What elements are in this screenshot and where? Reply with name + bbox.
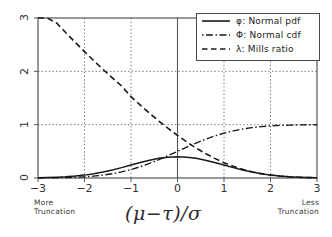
xtick-label-1: 1 [214,182,234,195]
note-more-truncation: More Truncation [34,198,75,216]
legend-label-normal-pdf: φ: Normal pdf [231,16,300,26]
ytick-label-0: 0 [18,171,31,185]
ytick-label-1: 1 [18,118,31,132]
xtick-label-0: 0 [168,182,188,195]
xtick-label-neg1: −1 [121,182,141,195]
solid-line-sample [201,16,231,26]
legend-item-mills-ratio: λ: Mills ratio [197,42,319,56]
ytick-label-3: 3 [18,11,31,25]
note-less-truncation-line2: Truncation [278,207,319,216]
xtick-label-neg2: −2 [75,182,95,195]
legend-label-mills-ratio: λ: Mills ratio [231,44,294,54]
chart-legend: φ: Normal pdf Φ: Normal cdf λ: Mills rat… [196,13,320,61]
note-less-truncation-line1: Less [278,198,319,207]
xtick-label-3: 3 [307,182,327,195]
x-axis-title: (μ−τ)/σ [125,202,201,224]
xtick-label-2: 2 [261,182,281,195]
chart-figure: −3 −2 −1 0 1 2 3 0 1 2 3 More Truncation… [0,0,332,237]
note-more-truncation-line2: Truncation [34,207,75,216]
xtick-label-neg3: −3 [28,182,48,195]
legend-item-normal-cdf: Φ: Normal cdf [197,28,319,42]
note-more-truncation-line1: More [34,198,75,207]
legend-item-normal-pdf: φ: Normal pdf [197,14,319,28]
dashdot-line-sample [201,30,231,40]
ytick-label-2: 2 [18,64,31,78]
note-less-truncation: Less Truncation [278,198,319,216]
legend-label-normal-cdf: Φ: Normal cdf [231,30,301,40]
dashed-line-sample [201,44,231,54]
